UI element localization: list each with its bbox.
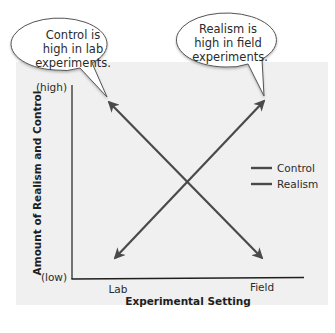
callout-realism-line-3: experiments.	[192, 50, 268, 64]
callout-control-line-1: Control is	[46, 28, 100, 42]
realism-control-diagram: (high) (low) Lab Field Experimental Sett…	[0, 0, 335, 333]
y-tick-low: (low)	[41, 271, 67, 283]
callout-control-line-2: high in lab	[43, 42, 103, 56]
callout-realism-line-2: high in field	[194, 36, 262, 50]
callout-control-line-3: experiments.	[35, 56, 111, 70]
callout-realism-line-1: Realism is	[199, 22, 257, 36]
legend-label-realism: Realism	[277, 178, 318, 190]
x-axis-title: Experimental Setting	[125, 295, 251, 307]
y-axis-title: Amount of Realism and Control	[31, 91, 43, 276]
legend-label-control: Control	[277, 162, 315, 174]
x-tick-lab: Lab	[109, 283, 128, 295]
x-tick-field: Field	[250, 281, 274, 293]
